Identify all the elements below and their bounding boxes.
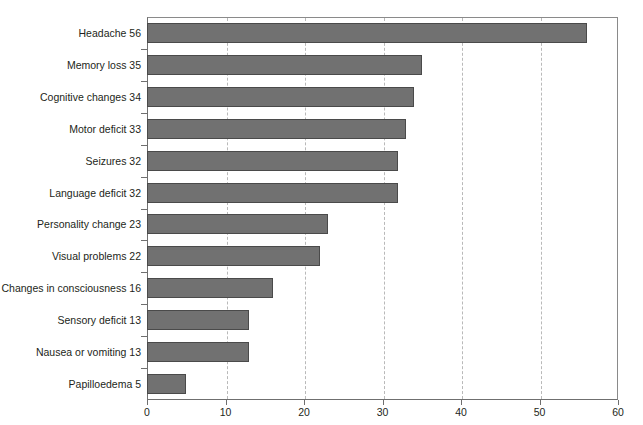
horizontal-bar-chart: Headache 56Memory loss 35Cognitive chang… [0, 0, 643, 425]
bar[interactable] [147, 151, 398, 171]
bar[interactable] [147, 374, 186, 394]
y-axis-tick [141, 49, 147, 50]
bar[interactable] [147, 246, 320, 266]
bar[interactable] [147, 310, 249, 330]
y-axis-tick [141, 304, 147, 305]
y-axis-label: Headache 56 [79, 23, 141, 43]
bar[interactable] [147, 278, 273, 298]
y-axis-tick [141, 177, 147, 178]
bar-row[interactable] [147, 87, 618, 107]
y-axis-label: Seizures 32 [86, 151, 141, 171]
bar-row[interactable] [147, 214, 618, 234]
y-axis-label: Personality change 23 [37, 214, 141, 234]
bar[interactable] [147, 55, 422, 75]
x-axis-tick [540, 400, 541, 405]
bar-row[interactable] [147, 183, 618, 203]
y-axis-label: Sensory deficit 13 [58, 310, 141, 330]
y-axis-tick [141, 272, 147, 273]
x-axis-tick [383, 400, 384, 405]
y-axis-label: Nausea or vomiting 13 [36, 342, 141, 362]
y-axis-label: Motor deficit 33 [69, 119, 141, 139]
bar-row[interactable] [147, 374, 618, 394]
bar[interactable] [147, 119, 406, 139]
x-axis-label: 40 [455, 406, 467, 418]
y-axis-label: Language deficit 32 [49, 183, 141, 203]
y-axis-tick [141, 336, 147, 337]
bar-row[interactable] [147, 55, 618, 75]
y-axis-label: Visual problems 22 [52, 246, 141, 266]
x-axis-tick [226, 400, 227, 405]
bar-row[interactable] [147, 23, 618, 43]
y-axis-tick [141, 368, 147, 369]
x-axis-label: 10 [220, 406, 232, 418]
x-axis-group: 0102030405060 [147, 400, 618, 425]
bar-row[interactable] [147, 246, 618, 266]
y-axis-tick [141, 113, 147, 114]
bar-row[interactable] [147, 278, 618, 298]
x-axis-label: 30 [377, 406, 389, 418]
y-axis-label: Memory loss 35 [67, 55, 141, 75]
x-axis-label: 0 [144, 406, 150, 418]
bar[interactable] [147, 23, 587, 43]
y-axis-tick [141, 145, 147, 146]
y-axis-tick [141, 240, 147, 241]
y-axis-label: Papilloedema 5 [69, 374, 141, 394]
y-axis-labels-group: Headache 56Memory loss 35Cognitive chang… [0, 17, 143, 400]
x-axis-tick [147, 400, 148, 405]
bars-group [147, 17, 618, 400]
y-axis-label: Cognitive changes 34 [40, 87, 141, 107]
y-axis-tick [141, 81, 147, 82]
bar[interactable] [147, 342, 249, 362]
y-axis-label: Changes in consciousness 16 [1, 278, 141, 298]
x-axis-label: 50 [534, 406, 546, 418]
bar-row[interactable] [147, 151, 618, 171]
bar-row[interactable] [147, 310, 618, 330]
bar[interactable] [147, 214, 328, 234]
y-axis-tick [141, 209, 147, 210]
bar[interactable] [147, 183, 398, 203]
x-axis-tick [304, 400, 305, 405]
bar-row[interactable] [147, 119, 618, 139]
x-axis-label: 60 [612, 406, 624, 418]
x-axis-tick [618, 400, 619, 405]
bar-row[interactable] [147, 342, 618, 362]
x-axis-tick [461, 400, 462, 405]
x-axis-label: 20 [298, 406, 310, 418]
bar[interactable] [147, 87, 414, 107]
